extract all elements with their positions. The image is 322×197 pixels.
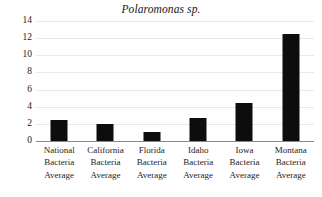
bar-chart-figure: Polaromonas sp. 02468101214 NationalBact…	[0, 0, 322, 197]
x-axis-line	[36, 141, 314, 142]
x-axis: NationalBacteriaAverageCaliforniaBacteri…	[36, 144, 314, 194]
bar-slot	[221, 21, 267, 141]
y-axis: 02468101214	[0, 21, 32, 141]
x-axis-category-line: Average	[36, 169, 82, 181]
x-axis-category-line: Bacteria	[36, 156, 82, 168]
x-axis-category-line: California	[82, 144, 128, 156]
bar-slot	[82, 21, 128, 141]
x-axis-category-line: Iowa	[221, 144, 267, 156]
x-axis-category-line: Idaho	[175, 144, 221, 156]
bar-slot	[175, 21, 221, 141]
x-axis-category-line: Florida	[129, 144, 175, 156]
x-axis-category-label: CaliforniaBacteriaAverage	[82, 144, 128, 181]
x-axis-category-label: MontanaBacteriaAverage	[268, 144, 314, 181]
x-axis-category-line: Bacteria	[268, 156, 314, 168]
x-axis-category-line: Montana	[268, 144, 314, 156]
bar-slot	[36, 21, 82, 141]
bar[interactable]	[51, 120, 68, 141]
chart-title: Polaromonas sp.	[0, 3, 322, 15]
y-axis-tick-label: 2	[27, 119, 32, 129]
bar[interactable]	[236, 103, 253, 141]
bar[interactable]	[190, 118, 207, 141]
y-axis-tick-label: 0	[27, 136, 32, 146]
y-axis-tick-label: 8	[27, 68, 32, 78]
x-axis-category-label: IdahoBacteriaAverage	[175, 144, 221, 181]
x-axis-category-line: Bacteria	[175, 156, 221, 168]
x-axis-category-line: Bacteria	[129, 156, 175, 168]
x-axis-category-line: Bacteria	[82, 156, 128, 168]
y-axis-tick-label: 12	[23, 33, 33, 43]
bars-layer	[36, 21, 314, 141]
x-axis-category-line: Average	[268, 169, 314, 181]
bar[interactable]	[282, 34, 299, 141]
y-axis-tick-label: 6	[27, 85, 32, 95]
x-axis-category-line: Average	[129, 169, 175, 181]
bar-slot	[268, 21, 314, 141]
x-axis-category-line: Average	[175, 169, 221, 181]
bar-slot	[129, 21, 175, 141]
y-axis-tick-label: 4	[27, 102, 32, 112]
x-axis-category-label: NationalBacteriaAverage	[36, 144, 82, 181]
bar[interactable]	[97, 124, 114, 141]
x-axis-category-line: National	[36, 144, 82, 156]
y-axis-tick-label: 14	[23, 16, 33, 26]
bar[interactable]	[143, 132, 160, 141]
x-axis-category-label: FloridaBacteriaAverage	[129, 144, 175, 181]
x-axis-category-line: Bacteria	[221, 156, 267, 168]
x-axis-category-label: IowaBacteriaAverage	[221, 144, 267, 181]
x-axis-category-line: Average	[221, 169, 267, 181]
x-axis-category-line: Average	[82, 169, 128, 181]
y-axis-tick-label: 10	[23, 51, 33, 61]
